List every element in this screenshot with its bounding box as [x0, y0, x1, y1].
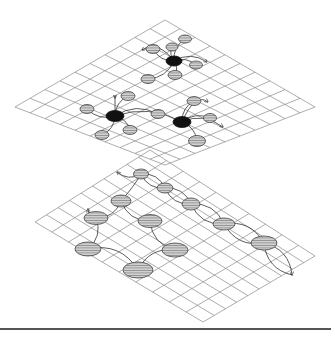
- grid-line: [35, 222, 203, 322]
- chain-node: [251, 236, 277, 250]
- chain-node: [134, 169, 149, 179]
- chain-node: [138, 215, 162, 228]
- chain-node: [162, 243, 188, 257]
- top-hub-nodes: [80, 35, 217, 147]
- grid-line: [15, 107, 165, 165]
- chain-node: [182, 198, 200, 210]
- grid-line: [120, 46, 270, 124]
- satellite-node: [179, 35, 192, 43]
- hub-node: [166, 56, 182, 66]
- chain-node: [123, 262, 153, 278]
- satellite-node: [187, 97, 201, 106]
- satellite-node: [204, 114, 217, 123]
- chain-node: [213, 218, 235, 230]
- satellite-node: [151, 110, 165, 119]
- chain-node: [157, 183, 173, 193]
- satellite-node: [80, 105, 94, 114]
- satellite-node: [121, 92, 135, 101]
- grid-line: [60, 81, 210, 148]
- diagram-canvas: [0, 0, 335, 339]
- satellite-node: [190, 61, 203, 69]
- grid-line: [45, 90, 195, 154]
- satellite-node: [146, 45, 160, 54]
- satellite-node: [166, 43, 178, 51]
- satellite-node: [189, 136, 206, 147]
- hub-node: [106, 111, 124, 122]
- chain-node: [84, 212, 108, 225]
- chain-node: [75, 242, 101, 256]
- satellite-node: [141, 75, 155, 84]
- grid-line: [150, 150, 315, 256]
- satellite-node: [168, 71, 182, 80]
- top-isometric-grid: [15, 20, 315, 165]
- hub-node: [173, 117, 191, 128]
- grid-line: [30, 98, 180, 159]
- chain-node: [111, 195, 131, 207]
- satellite-node: [123, 126, 137, 135]
- satellite-node: [95, 131, 109, 140]
- bottom-isometric-grid: [35, 150, 315, 322]
- chain-path-loop: [88, 201, 175, 270]
